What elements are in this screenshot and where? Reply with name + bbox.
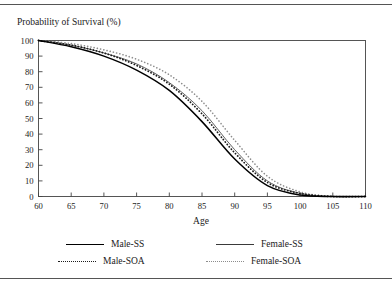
svg-text:70: 70 [25,82,34,92]
legend-item-male-soa: Male-SOA [36,256,198,267]
svg-text:105: 105 [326,201,339,211]
legend-label-female-soa: Female-SOA [251,256,301,267]
svg-text:110: 110 [359,201,372,211]
svg-text:100: 100 [294,201,307,211]
legend-item-female-soa: Female-SOA [198,256,356,267]
plot-area: 0102030405060708090100 60657075808590951… [0,0,392,236]
legend-line-sample-female-soa-icon [206,256,244,266]
x-axis-tick-labels: 6065707580859095100105110 [34,201,372,211]
legend-label-male-ss: Male-SS [111,239,144,250]
svg-text:75: 75 [132,201,141,211]
svg-text:70: 70 [100,201,109,211]
series-curve-male-ss [39,41,366,197]
legend-item-female-ss: Female-SS [206,239,366,250]
svg-text:60: 60 [34,201,43,211]
svg-text:0: 0 [29,192,33,202]
svg-text:50: 50 [25,114,34,124]
legend-row-soa: Male-SOA Female-SOA [0,253,392,269]
svg-text:80: 80 [25,67,34,77]
svg-text:90: 90 [25,51,34,61]
legend-row-ss: Male-SS Female-SS [0,236,392,252]
svg-text:30: 30 [25,145,34,155]
survival-chart-figure: Probability of Survival (%) 010203040506… [0,0,392,287]
svg-text:40: 40 [25,129,34,139]
svg-text:60: 60 [25,98,34,108]
svg-text:85: 85 [198,201,207,211]
legend-line-sample-female-ss-icon [216,239,254,249]
svg-text:80: 80 [165,201,174,211]
svg-text:95: 95 [263,201,272,211]
series-curve-male-soa [39,41,366,197]
svg-text:90: 90 [230,201,239,211]
y-axis-tick-labels: 0102030405060708090100 [21,36,34,202]
bottom-divider-rule [0,278,392,279]
chart-legend: Male-SS Female-SS Male-SOA Female-SOA [0,236,392,274]
svg-text:20: 20 [25,160,34,170]
legend-line-sample-male-soa-icon [58,256,96,266]
legend-line-sample-male-ss-icon [66,239,104,249]
plot-frame [39,41,366,197]
legend-label-female-ss: Female-SS [261,239,303,250]
svg-text:10: 10 [25,176,34,186]
svg-text:65: 65 [67,201,76,211]
x-axis-title: Age [193,216,209,226]
series-curves [39,41,366,197]
svg-text:100: 100 [21,36,34,46]
legend-label-male-soa: Male-SOA [103,256,145,267]
y-axis-ticks [39,41,43,197]
legend-item-male-ss: Male-SS [26,239,206,250]
series-curve-female-soa [39,41,366,197]
series-curve-female-ss [39,41,366,197]
